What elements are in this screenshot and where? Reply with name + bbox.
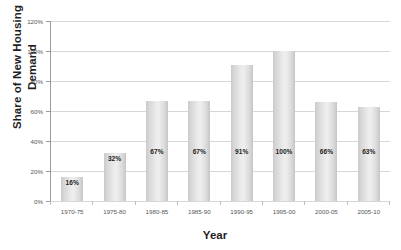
- x-tick-mark: [50, 201, 51, 205]
- y-tick-mark: [46, 111, 50, 112]
- bar-slot: 66%: [315, 21, 337, 201]
- bar-slot: 100%: [273, 21, 295, 201]
- bar-slot: 91%: [231, 21, 253, 201]
- x-tick-mark: [389, 201, 390, 205]
- bar-value-label: 67%: [188, 148, 210, 155]
- bar-chart: Share of New Housing Demand 0%20%40%60%8…: [0, 0, 401, 250]
- x-tick-label: 1970-75: [61, 208, 84, 215]
- bar-slot: 16%: [61, 21, 83, 201]
- y-tick-mark: [46, 81, 50, 82]
- bar-value-label: 91%: [231, 148, 253, 155]
- bar[interactable]: [231, 65, 253, 202]
- x-tick-label: 1990-95: [230, 208, 253, 215]
- bar-series: 16%32%67%67%91%100%66%63%: [51, 21, 390, 201]
- bar-value-label: 32%: [104, 155, 126, 162]
- x-tick-label: 1995-00: [273, 208, 296, 215]
- bar-value-label: 67%: [146, 148, 168, 155]
- x-tick-mark: [304, 201, 305, 205]
- x-tick-mark: [135, 201, 136, 205]
- bar[interactable]: [273, 51, 295, 201]
- x-tick-label: 1980-85: [146, 208, 169, 215]
- y-tick-label: 20%: [31, 168, 43, 175]
- bar-value-label: 16%: [61, 179, 83, 186]
- x-axis-title: Year: [40, 229, 390, 241]
- y-tick-label: 60%: [31, 108, 43, 115]
- y-tick-label: 40%: [31, 138, 43, 145]
- x-tick-label: 2000-05: [315, 208, 338, 215]
- bar-value-label: 63%: [358, 148, 380, 155]
- y-tick-label: 80%: [31, 78, 43, 85]
- bar-value-label: 100%: [273, 148, 295, 155]
- y-tick-label: 120%: [27, 18, 43, 25]
- y-tick-mark: [46, 51, 50, 52]
- x-tick-label: 1975-80: [103, 208, 126, 215]
- x-tick-mark: [262, 201, 263, 205]
- x-tick-label: 1985-90: [188, 208, 211, 215]
- x-tick-mark: [220, 201, 221, 205]
- x-tick-label: 2005-10: [357, 208, 380, 215]
- bar-slot: 67%: [146, 21, 168, 201]
- y-tick-label: 0%: [34, 198, 43, 205]
- bar-slot: 32%: [104, 21, 126, 201]
- bar-slot: 63%: [358, 21, 380, 201]
- y-tick-mark: [46, 171, 50, 172]
- y-tick-mark: [46, 21, 50, 22]
- x-tick-mark: [177, 201, 178, 205]
- x-tick-mark: [347, 201, 348, 205]
- x-tick-mark: [92, 201, 93, 205]
- bar-value-label: 66%: [315, 148, 337, 155]
- y-tick-mark: [46, 141, 50, 142]
- plot-area: 0%20%40%60%80%100%120% 16%32%67%67%91%10…: [50, 21, 390, 201]
- bar-slot: 67%: [188, 21, 210, 201]
- y-tick-label: 100%: [27, 48, 43, 55]
